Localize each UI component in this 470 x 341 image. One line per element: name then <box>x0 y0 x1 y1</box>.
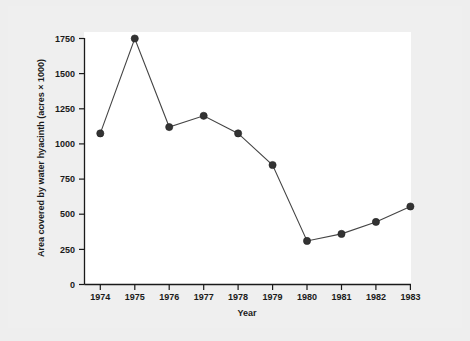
x-tick-labels: 1974 1975 1976 1977 1978 1979 1980 1981 … <box>90 292 420 302</box>
x-tick-label-1976: 1976 <box>159 292 179 302</box>
x-tick-label-1983: 1983 <box>400 292 420 302</box>
x-tick-label-1981: 1981 <box>331 292 351 302</box>
line-chart: 1750 1500 1250 1000 750 500 250 0 1974 1… <box>0 0 470 341</box>
data-point-1979 <box>269 161 276 168</box>
data-point-1977 <box>200 112 207 119</box>
y-tick-label-500: 500 <box>60 209 75 219</box>
y-tick-label-750: 750 <box>60 174 75 184</box>
data-point-1974 <box>97 130 104 137</box>
axes-group <box>85 38 412 285</box>
data-point-1982 <box>372 218 379 225</box>
data-point-1978 <box>235 130 242 137</box>
y-tick-label-1250: 1250 <box>55 104 75 114</box>
x-tick-label-1980: 1980 <box>297 292 317 302</box>
y-tick-labels: 1750 1500 1250 1000 750 500 250 0 <box>55 34 75 290</box>
y-tick-marks <box>79 39 85 285</box>
data-point-1976 <box>166 123 173 130</box>
data-point-1975 <box>131 35 138 42</box>
x-tick-label-1974: 1974 <box>90 292 110 302</box>
series-line-water-hyacinth <box>100 39 410 241</box>
x-tick-label-1979: 1979 <box>263 292 283 302</box>
x-axis-title: Year <box>237 308 257 318</box>
x-tick-label-1975: 1975 <box>125 292 145 302</box>
series-markers <box>97 35 414 245</box>
data-series-group <box>97 35 414 245</box>
y-tick-label-0: 0 <box>70 280 75 290</box>
y-tick-label-1500: 1500 <box>55 69 75 79</box>
x-tick-label-1978: 1978 <box>228 292 248 302</box>
x-tick-label-1982: 1982 <box>366 292 386 302</box>
data-point-1980 <box>303 237 310 244</box>
y-tick-label-1000: 1000 <box>55 139 75 149</box>
data-point-1981 <box>338 230 345 237</box>
y-tick-label-1750: 1750 <box>55 34 75 44</box>
x-tick-marks <box>100 285 410 291</box>
x-tick-label-1977: 1977 <box>194 292 214 302</box>
y-tick-label-250: 250 <box>60 245 75 255</box>
data-point-1983 <box>407 203 414 210</box>
figure-container: 1750 1500 1250 1000 750 500 250 0 1974 1… <box>0 0 470 341</box>
y-axis-title: Area covered by water hyacinth (acres × … <box>36 59 46 257</box>
